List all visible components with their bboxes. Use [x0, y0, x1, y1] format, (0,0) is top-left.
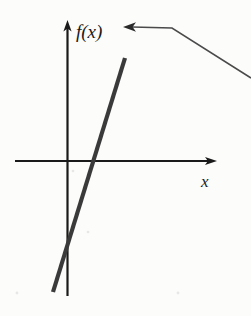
function-line: [53, 58, 125, 292]
x-axis: [15, 157, 217, 165]
function-line-series: [53, 58, 125, 292]
scan-artifacts: [16, 170, 180, 295]
y-axis-label: f(x): [76, 21, 102, 43]
callout-leader: [123, 22, 251, 78]
figure-root: f(x) x: [0, 0, 251, 316]
linear-function-graph: f(x) x: [0, 0, 251, 316]
leader-line: [132, 27, 251, 78]
x-axis-label: x: [200, 172, 209, 191]
